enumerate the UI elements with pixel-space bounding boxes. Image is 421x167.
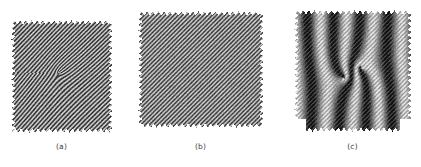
panel-label-b: (b)	[138, 142, 263, 152]
interferogram-image-b	[138, 10, 263, 128]
figure-container: (a) (b) (c)	[0, 0, 421, 167]
panel-c	[294, 9, 411, 132]
panel-label-c: (c)	[294, 142, 411, 152]
panel-a	[11, 19, 112, 133]
panel-b	[138, 10, 263, 128]
interferogram-image-a	[11, 19, 112, 133]
interferogram-image-c	[294, 9, 411, 132]
panel-label-a: (a)	[11, 142, 112, 152]
